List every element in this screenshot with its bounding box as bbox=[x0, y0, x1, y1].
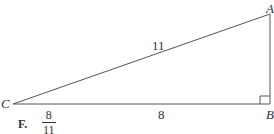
fraction-numerator: 8 bbox=[42, 109, 56, 121]
vertex-b-label: B bbox=[266, 108, 274, 121]
side-ca bbox=[13, 14, 270, 104]
vertex-a-label: A bbox=[266, 2, 274, 15]
right-angle-marker bbox=[260, 96, 270, 104]
answer-choice-letter: F. bbox=[18, 117, 27, 132]
vertex-c-label: C bbox=[1, 97, 10, 110]
answer-fraction: 8 11 bbox=[42, 109, 56, 134]
hypotenuse-length-label: 11 bbox=[152, 39, 165, 52]
base-length-label: 8 bbox=[158, 108, 165, 121]
fraction-denominator: 11 bbox=[42, 124, 56, 134]
